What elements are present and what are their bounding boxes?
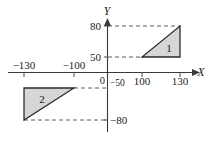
triangle-region-2 [24,88,74,120]
x-tick-label-100: 100 [134,75,151,87]
triangle-region-1 [142,26,180,57]
y-axis-arrowhead [104,18,111,26]
region-label-2: 2 [39,93,45,105]
x-tick-label-130: 130 [172,75,189,87]
origin-label: 0 [100,75,105,86]
coordinate-plot: X Y −130 −100 100 130 80 50 −50 −80 0 1 … [0,0,211,147]
x-axis-label: X [196,66,205,78]
figure-container: X Y −130 −100 100 130 80 50 −50 −80 0 1 … [0,0,211,147]
y-tick-label-neg80: −80 [110,114,128,126]
y-axis-label: Y [104,5,112,17]
y-tick-label-neg50: −50 [110,78,125,88]
y-tick-label-50: 50 [90,51,102,63]
region-label-1: 1 [166,42,172,54]
x-tick-label-neg130: −130 [13,59,36,71]
y-tick-label-80: 80 [90,20,102,32]
x-tick-label-neg100: −100 [63,59,86,71]
